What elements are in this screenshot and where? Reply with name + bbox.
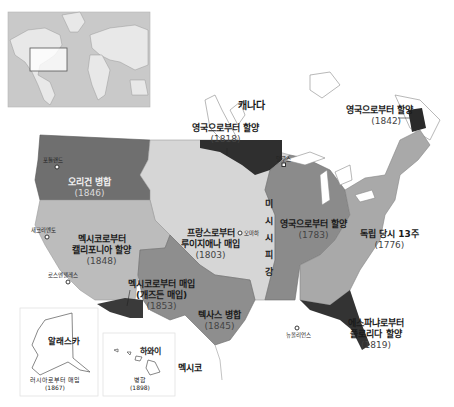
label-california-line2: 캘리포니아 할양 xyxy=(72,245,131,256)
label-california-year: (1848) xyxy=(72,256,131,267)
city-marker-sacramento xyxy=(45,235,49,239)
city-marker-portland xyxy=(55,165,59,169)
label-california: 멕시코로부터 캘리포니아 할양 (1848) xyxy=(72,234,131,267)
label-florida-line2: 플로리다 할양 xyxy=(348,329,404,340)
label-texas: 텍사스 병합 (1845) xyxy=(198,310,241,332)
label-louisiana: 프랑스로부터 루이지애나 매입 (1803) xyxy=(181,228,240,261)
world-inset-map xyxy=(8,12,150,107)
label-hawaii-year: (1898) xyxy=(130,384,150,392)
label-hawaii: 하와이 xyxy=(140,346,161,357)
label-alaska-note-text: 러시아로부터 매입 xyxy=(30,376,80,384)
label-gadsden-line2: (개즈든 매입) xyxy=(128,290,195,301)
label-gadsden: 멕시코로부터 매입 (개즈든 매입) (1853) xyxy=(128,279,195,312)
label-texas-title: 텍사스 병합 xyxy=(198,310,241,320)
mississippi-char: 시 xyxy=(264,230,274,247)
label-thirteen-colonies: 독립 당시 13주 (1776) xyxy=(360,229,419,251)
city-label-sacramento: 새크라멘토 xyxy=(31,226,56,234)
label-british-1842: 영국으로부터 할양 (1842) xyxy=(346,105,413,127)
mississippi-char: 미 xyxy=(264,196,274,213)
label-british-1783-year: (1783) xyxy=(280,230,347,241)
label-british-1818-year: (1818) xyxy=(192,134,259,145)
label-british-1783-title: 영국으로부터 할양 xyxy=(280,219,347,229)
label-british-1783: 영국으로부터 할양 (1783) xyxy=(280,219,347,241)
mississippi-char: 피 xyxy=(264,247,274,264)
label-alaska-year: (1867) xyxy=(30,384,80,392)
label-mexico: 멕시코 xyxy=(178,363,202,374)
city-label-los-angeles: 로스앤젤레스 xyxy=(48,271,78,279)
city-label-omaha: 오마하 xyxy=(244,229,259,237)
label-oregon-title: 오리건 병합 xyxy=(68,177,111,187)
label-florida-line1: 에스파냐로부터 xyxy=(348,318,404,329)
label-louisiana-year: (1803) xyxy=(181,250,240,261)
label-thirteen-colonies-title: 독립 당시 13주 xyxy=(360,229,419,239)
label-thirteen-colonies-year: (1776) xyxy=(360,240,419,251)
label-hawaii-note: 병합 (1898) xyxy=(130,376,150,392)
label-florida-year: (1819) xyxy=(348,340,404,351)
label-canada: 캐나다 xyxy=(238,100,265,111)
label-texas-year: (1845) xyxy=(198,321,241,332)
city-label-new-orleans: 뉴올리언스 xyxy=(286,331,311,339)
city-label-portland: 포틀랜드 xyxy=(43,156,63,164)
label-british-1818-title: 영국으로부터 할양 xyxy=(192,123,259,133)
label-hawaii-note-text: 병합 xyxy=(130,376,150,384)
label-gadsden-line1: 멕시코로부터 매입 xyxy=(128,279,195,290)
inset-highlight-box xyxy=(30,48,67,71)
label-gadsden-year: (1853) xyxy=(128,301,195,312)
label-british-1818: 영국으로부터 할양 (1818) xyxy=(192,123,259,145)
label-mississippi-river: 미 시 시 피 강 xyxy=(264,196,274,281)
label-louisiana-line2: 루이지애나 매입 xyxy=(181,239,240,250)
label-british-1842-year: (1842) xyxy=(346,116,413,127)
label-oregon-year: (1846) xyxy=(68,188,111,199)
city-label-duluth: 덜루스 xyxy=(276,155,291,163)
label-oregon: 오리건 병합 (1846) xyxy=(68,177,111,199)
city-marker-new-orleans xyxy=(295,326,299,330)
label-florida: 에스파냐로부터 플로리다 할양 (1819) xyxy=(348,318,404,351)
mississippi-char: 시 xyxy=(264,213,274,230)
label-alaska-note: 러시아로부터 매입 (1867) xyxy=(30,376,80,392)
label-alaska: 알래스카 xyxy=(48,336,80,347)
label-california-line1: 멕시코로부터 xyxy=(72,234,131,245)
label-louisiana-line1: 프랑스로부터 xyxy=(181,228,240,239)
mississippi-char: 강 xyxy=(264,264,274,281)
gulf-coast xyxy=(215,345,222,380)
label-british-1842-title: 영국으로부터 할양 xyxy=(346,105,413,115)
city-marker-duluth xyxy=(282,163,286,167)
city-marker-los-angeles xyxy=(66,280,70,284)
